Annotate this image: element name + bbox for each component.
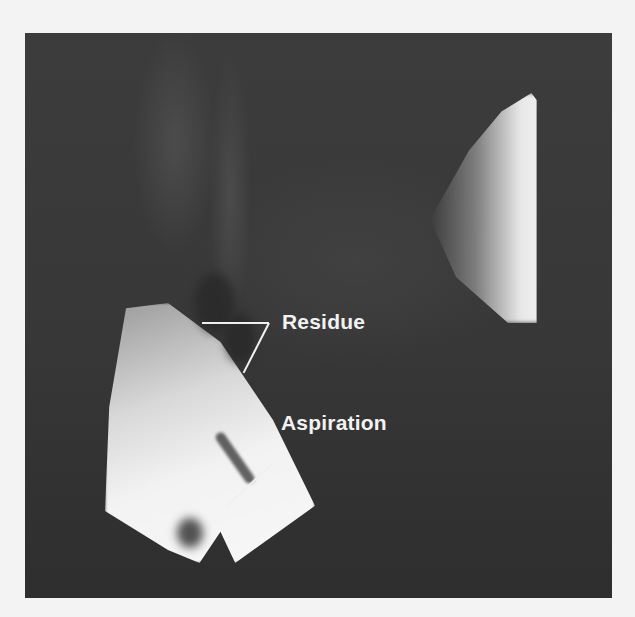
residue-leader-horizontal — [202, 322, 269, 324]
aspiration-label: Aspiration — [281, 411, 387, 435]
notch-shadow — [177, 518, 203, 548]
residue-label: Residue — [282, 310, 365, 334]
fluoroscopy-image: Residue Aspiration — [25, 33, 612, 598]
